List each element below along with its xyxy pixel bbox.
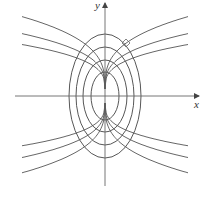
x-axis-label: x xyxy=(193,98,199,110)
y-axis-label: y xyxy=(94,0,100,11)
orthogonal-trajectories-diagram: x y xyxy=(0,0,214,198)
